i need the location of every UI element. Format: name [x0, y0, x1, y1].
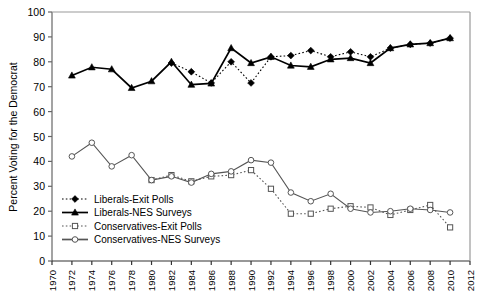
- data-point-marker: [149, 177, 155, 183]
- data-point-marker: [248, 157, 254, 163]
- x-tick-label: 1972: [66, 270, 77, 291]
- data-point-marker: [89, 140, 95, 146]
- data-point-marker: [368, 210, 374, 216]
- legend-label: Conservatives-NES Surveys: [94, 234, 220, 245]
- data-point-marker: [109, 164, 115, 170]
- legend-item-3[interactable]: Conservatives-Exit Polls: [62, 221, 202, 232]
- x-tick-label: 1976: [106, 270, 117, 291]
- data-point-marker: [72, 237, 78, 243]
- data-point-marker: [348, 206, 354, 212]
- data-point-marker: [72, 223, 77, 228]
- chart-container: 0102030405060708090100 19701972197419761…: [0, 0, 479, 302]
- data-point-marker: [268, 160, 274, 166]
- legend-item-1[interactable]: Liberals-Exit Polls: [62, 194, 173, 205]
- x-tick-label: 2008: [425, 270, 436, 291]
- legend-label: Conservatives-Exit Polls: [94, 221, 202, 232]
- data-point-marker: [189, 180, 195, 186]
- y-tick-label: 100: [27, 6, 45, 18]
- data-point-marker: [288, 190, 294, 196]
- data-point-marker: [228, 169, 234, 175]
- data-point-marker: [268, 186, 273, 191]
- x-tick-label: 1992: [265, 270, 276, 291]
- y-tick-label: 40: [33, 155, 45, 167]
- y-tick-label: 10: [33, 230, 45, 242]
- x-tick-label: 1970: [47, 270, 58, 291]
- data-point-marker: [248, 168, 253, 173]
- x-tick-label: 2012: [465, 270, 476, 291]
- legend-label: Liberals-NES Surveys: [94, 207, 192, 218]
- data-point-marker: [208, 171, 214, 177]
- data-point-marker: [69, 154, 75, 160]
- series-line: [72, 38, 450, 88]
- legend-label: Liberals-Exit Polls: [94, 194, 173, 205]
- x-tick-label: 2004: [385, 270, 396, 291]
- y-axis-label: Percent Voting for the Democrat: [7, 62, 19, 211]
- data-point-marker: [72, 196, 79, 203]
- x-tick-label: 1982: [166, 270, 177, 291]
- x-tick-label: 1984: [186, 270, 197, 291]
- line-chart: 0102030405060708090100 19701972197419761…: [0, 0, 479, 302]
- x-tick-label: 1980: [146, 270, 157, 291]
- y-tick-label: 50: [33, 131, 45, 143]
- data-point-marker: [427, 207, 433, 213]
- data-point-marker: [169, 174, 175, 180]
- x-tick-label: 1988: [226, 270, 237, 291]
- legend-item-4[interactable]: Conservatives-NES Surveys: [62, 234, 220, 245]
- x-tick-label: 1996: [305, 270, 316, 291]
- data-point-marker: [447, 225, 452, 230]
- data-point-marker: [228, 45, 235, 51]
- data-point-marker: [287, 52, 294, 59]
- y-tick-label: 90: [33, 31, 45, 43]
- x-tick-label: 1974: [86, 270, 97, 291]
- data-point-marker: [447, 210, 453, 216]
- data-point-marker: [288, 211, 293, 216]
- data-point-marker: [407, 206, 413, 212]
- y-tick-label: 70: [33, 81, 45, 93]
- x-tick-label: 1998: [325, 270, 336, 291]
- data-point-marker: [129, 152, 135, 158]
- chart-legend: Liberals-Exit PollsLiberals-NES SurveysC…: [62, 194, 220, 246]
- y-tick-label: 30: [33, 180, 45, 192]
- x-tick-label: 2000: [345, 270, 356, 291]
- data-point-marker: [328, 191, 334, 197]
- x-tick-label: 2006: [405, 270, 416, 291]
- x-tick-label: 1994: [285, 270, 296, 291]
- data-point-marker: [388, 208, 394, 214]
- y-tick-label: 20: [33, 205, 45, 217]
- series-line: [152, 170, 451, 227]
- x-tick-label: 2002: [365, 270, 376, 291]
- x-tick-label: 1986: [206, 270, 217, 291]
- series-2: [69, 35, 454, 91]
- data-point-marker: [168, 58, 175, 64]
- y-tick-label: 0: [39, 255, 45, 267]
- x-tick-label: 1978: [126, 270, 137, 291]
- x-tick-label: 2010: [445, 270, 456, 291]
- data-point-marker: [328, 206, 333, 211]
- data-point-marker: [308, 211, 313, 216]
- x-axis-ticks: 1970197219741976197819801982198419861988…: [47, 261, 476, 291]
- y-tick-label: 60: [33, 106, 45, 118]
- legend-item-2[interactable]: Liberals-NES Surveys: [62, 207, 192, 218]
- data-point-marker: [308, 198, 314, 204]
- y-axis-ticks: 0102030405060708090100: [27, 6, 52, 267]
- y-tick-label: 80: [33, 56, 45, 68]
- x-tick-label: 1990: [246, 270, 257, 291]
- data-point-marker: [307, 47, 314, 54]
- data-point-marker: [188, 68, 195, 75]
